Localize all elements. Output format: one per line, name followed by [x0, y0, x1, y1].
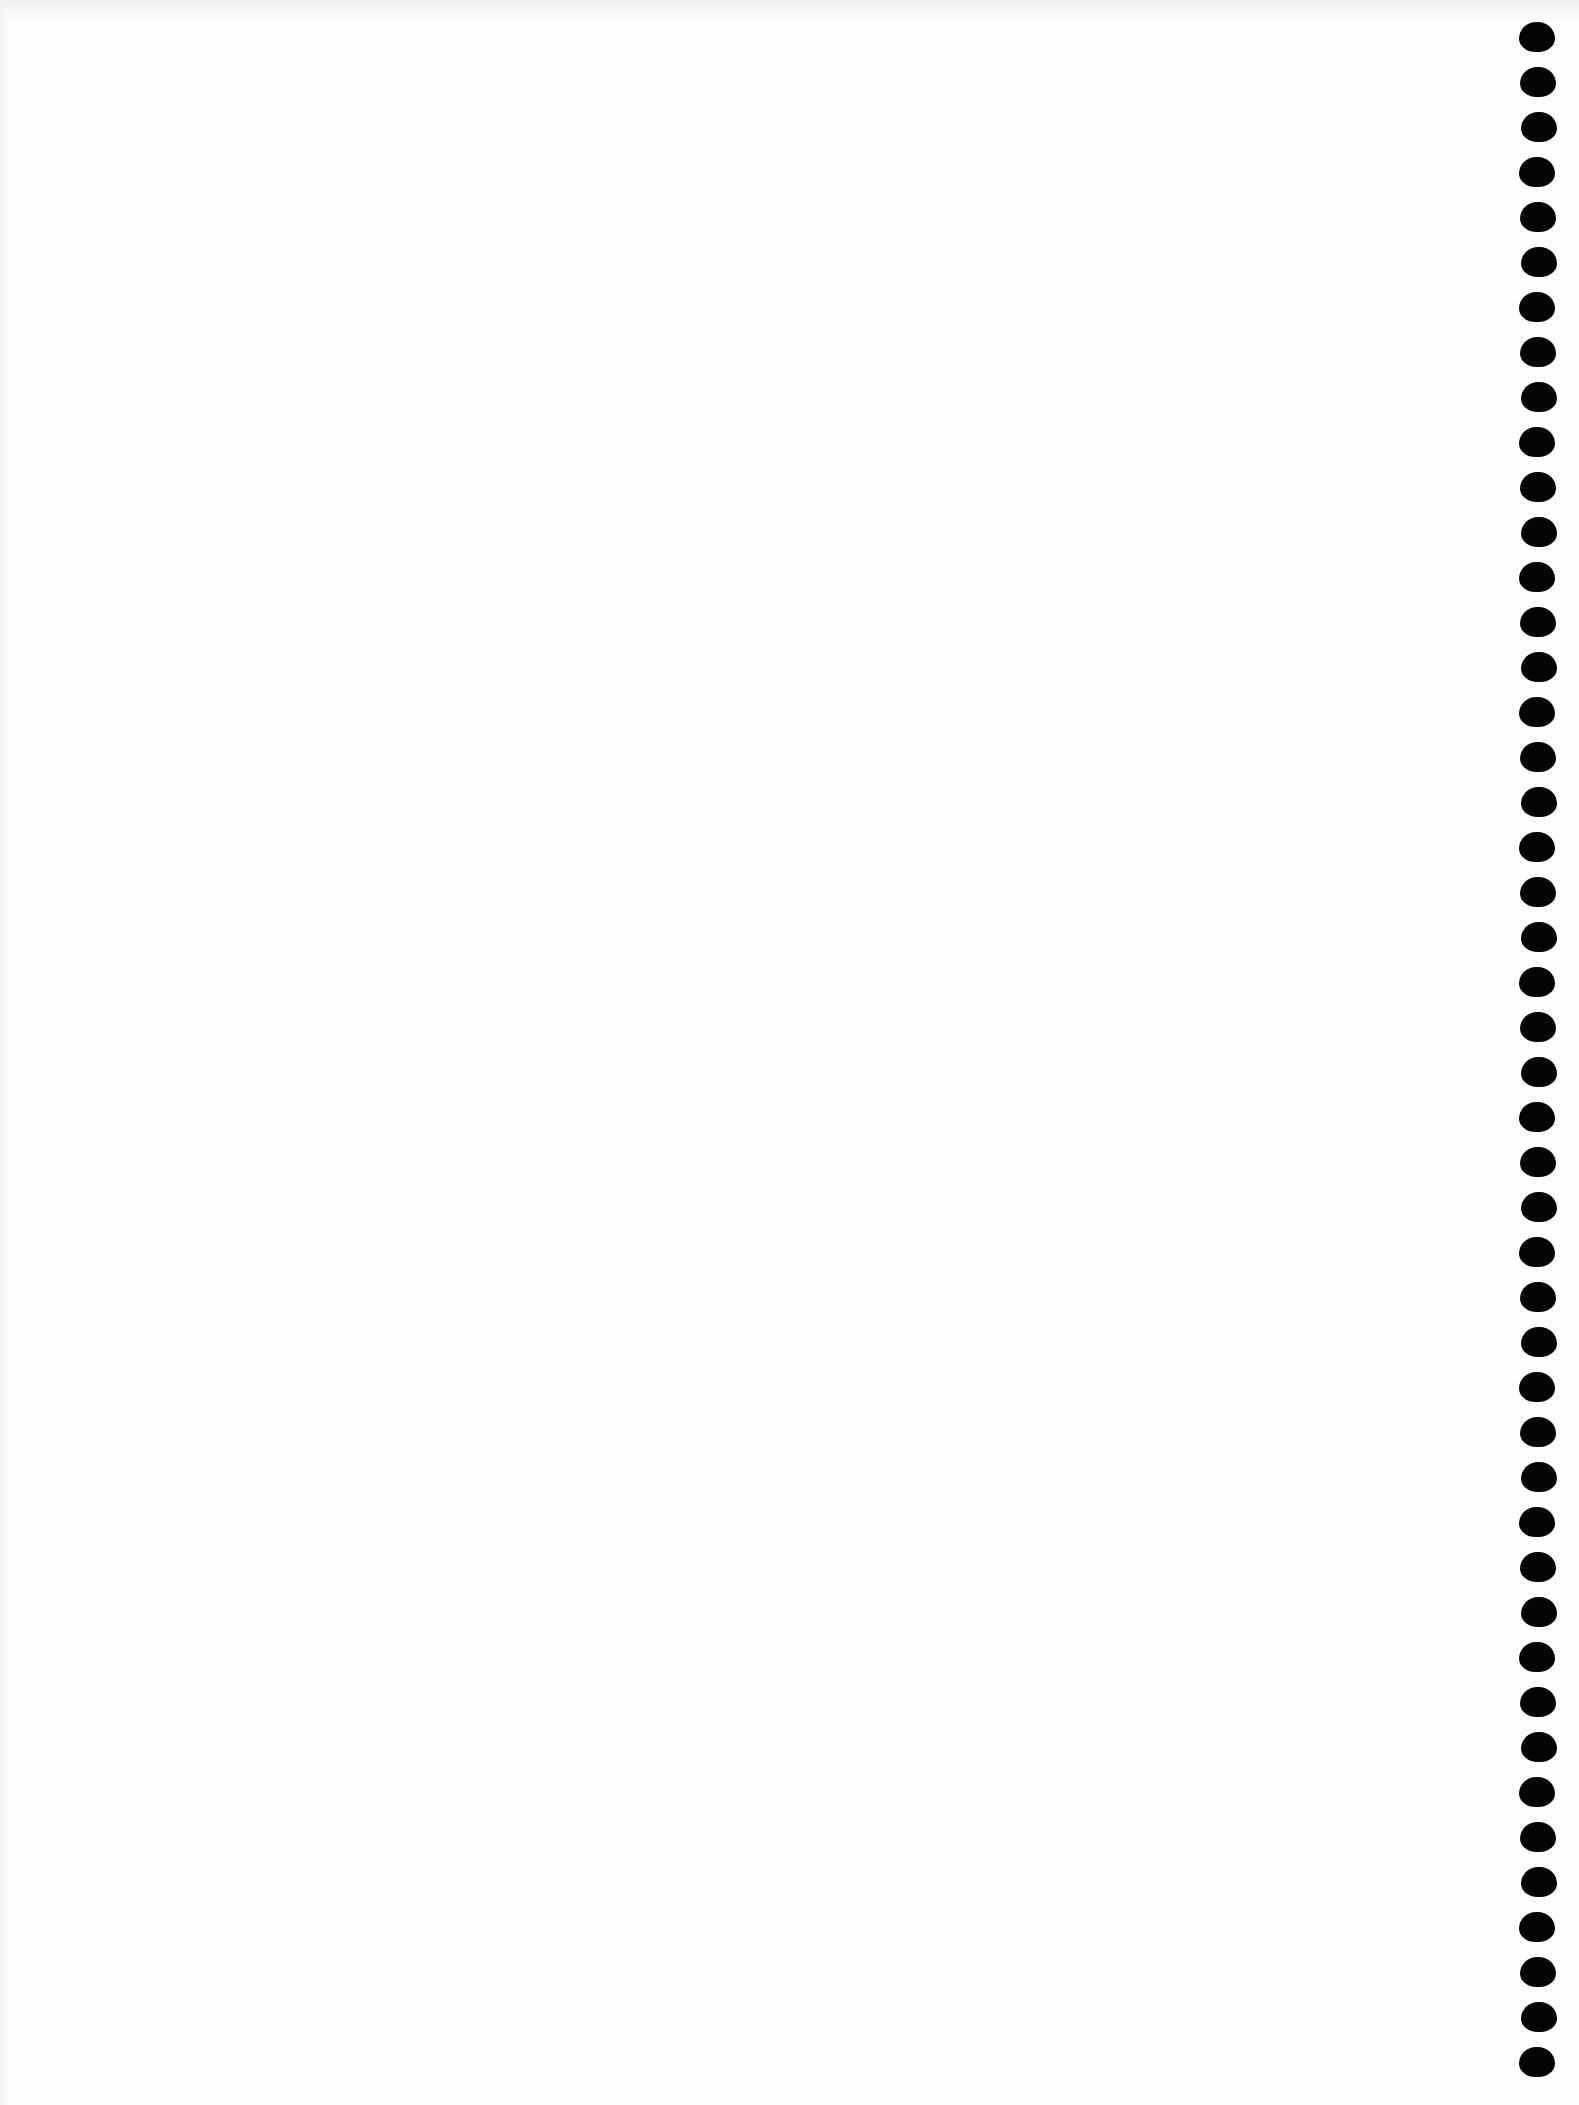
punch-hole	[1519, 1372, 1555, 1402]
punch-hole	[1521, 922, 1557, 952]
punch-hole	[1519, 1507, 1555, 1537]
punch-hole	[1520, 1012, 1556, 1042]
punch-hole	[1519, 832, 1555, 862]
punch-hole	[1520, 337, 1556, 367]
punch-hole	[1519, 427, 1555, 457]
scan-shadow-left	[0, 0, 8, 2105]
punch-hole	[1520, 67, 1556, 97]
punch-hole	[1520, 1417, 1556, 1447]
punch-hole	[1519, 562, 1555, 592]
punch-hole	[1521, 1462, 1557, 1492]
punch-hole	[1519, 1912, 1555, 1942]
punch-hole	[1520, 202, 1556, 232]
punch-hole	[1521, 247, 1557, 277]
punch-hole	[1521, 517, 1557, 547]
punch-hole	[1521, 1057, 1557, 1087]
punch-hole	[1521, 787, 1557, 817]
punch-hole	[1519, 967, 1555, 997]
notebook-page	[0, 0, 1579, 2105]
punch-hole	[1519, 1642, 1555, 1672]
punch-hole	[1519, 1777, 1555, 1807]
punch-hole	[1520, 1957, 1556, 1987]
punch-hole	[1520, 472, 1556, 502]
punch-hole	[1519, 697, 1555, 727]
punch-hole	[1521, 2002, 1557, 2032]
punch-hole	[1521, 1867, 1557, 1897]
punch-hole	[1519, 1102, 1555, 1132]
punch-hole	[1521, 1327, 1557, 1357]
punch-hole	[1520, 742, 1556, 772]
punch-hole	[1520, 1687, 1556, 1717]
punch-hole	[1520, 1147, 1556, 1177]
punch-hole	[1520, 877, 1556, 907]
punch-hole	[1519, 1237, 1555, 1267]
punch-hole	[1521, 382, 1557, 412]
punch-hole	[1520, 1282, 1556, 1312]
punch-hole	[1520, 607, 1556, 637]
punch-hole	[1521, 112, 1557, 142]
punch-hole	[1519, 157, 1555, 187]
punch-hole	[1519, 2047, 1555, 2077]
punch-hole	[1519, 292, 1555, 322]
spiral-binding-holes	[1520, 0, 1560, 2105]
punch-hole	[1521, 1192, 1557, 1222]
punch-hole	[1521, 1732, 1557, 1762]
punch-hole	[1521, 1597, 1557, 1627]
punch-hole	[1520, 1552, 1556, 1582]
punch-hole	[1520, 1822, 1556, 1852]
punch-hole	[1519, 22, 1555, 52]
punch-hole	[1521, 652, 1557, 682]
scan-shadow-top	[0, 0, 1579, 22]
